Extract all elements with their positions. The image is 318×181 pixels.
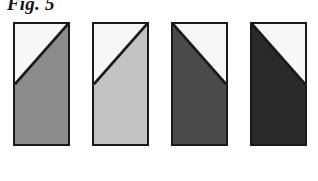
swatch-2-shaded-triangle [94, 24, 147, 144]
figure-root: Fig. 5 [0, 0, 318, 181]
swatch-2-diagonal-shape [94, 24, 147, 144]
swatch-4-diagonal-shape [252, 24, 305, 144]
swatch-4-shaded-triangle [252, 24, 305, 144]
swatch-rectangle-2 [92, 22, 149, 146]
swatch-3-shaded-triangle [173, 24, 226, 144]
swatch-rectangle-1 [13, 22, 70, 146]
swatch-row [0, 0, 318, 181]
swatch-1-shaded-triangle [15, 24, 68, 144]
swatch-rectangle-3 [171, 22, 228, 146]
swatch-1-diagonal-shape [15, 24, 68, 144]
swatch-rectangle-4 [250, 22, 307, 146]
swatch-3-diagonal-shape [173, 24, 226, 144]
